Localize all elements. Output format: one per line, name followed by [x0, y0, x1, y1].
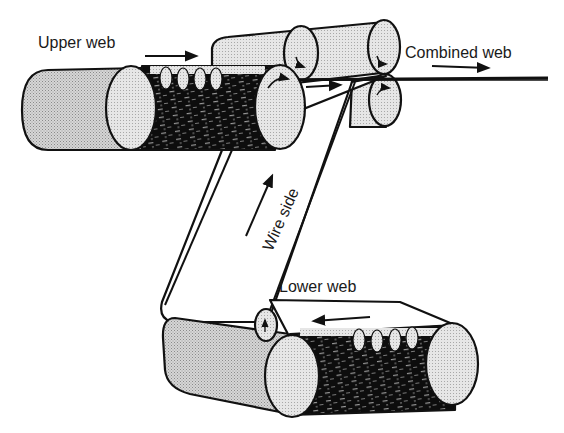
combined-web-label: Combined web	[405, 44, 512, 61]
lower-wire-cylinder-right-end	[426, 323, 478, 405]
diagram-canvas: Upper web Combined web Wire side Lower w…	[0, 0, 564, 433]
lower-guide-roll	[255, 309, 277, 341]
upper-wire-cylinder-left-end	[106, 66, 156, 150]
lower-wire-cylinder-left-end	[265, 335, 319, 417]
upper-couch-roll-right-end	[368, 20, 400, 74]
upper-wire-cylinder-right-end	[255, 65, 305, 149]
lower-web-label: Lower web	[279, 278, 356, 295]
nip-arrow	[306, 85, 340, 87]
upper-wire-cylinder	[22, 65, 305, 150]
upper-web-label: Upper web	[38, 34, 115, 51]
combined-web-arrow	[432, 66, 488, 68]
